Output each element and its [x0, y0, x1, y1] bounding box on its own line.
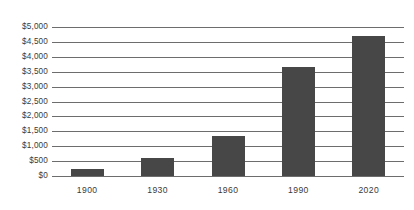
y-tick-label: $0	[0, 172, 48, 180]
bar-2020[interactable]	[352, 36, 385, 176]
y-axis: $5,000 $4,500 $4,000 $3,500 $3,000 $2,50…	[0, 0, 48, 210]
bar-1990[interactable]	[282, 67, 315, 176]
y-tick-label: $5,000	[0, 23, 48, 31]
bars-layer	[52, 0, 404, 210]
y-tick-label: $4,000	[0, 53, 48, 61]
bar-1930[interactable]	[141, 158, 174, 176]
y-tick-label: $3,500	[0, 68, 48, 76]
y-tick-label: $1,000	[0, 142, 48, 150]
y-tick-label: $2,500	[0, 97, 48, 105]
bar-chart: $5,000 $4,500 $4,000 $3,500 $3,000 $2,50…	[0, 0, 414, 210]
y-tick-label: $1,500	[0, 127, 48, 135]
y-tick-label: $3,000	[0, 82, 48, 90]
bar-1960[interactable]	[212, 136, 245, 176]
y-tick-label: $500	[0, 157, 48, 165]
y-tick-label: $2,000	[0, 112, 48, 120]
bar-1900[interactable]	[71, 169, 104, 176]
plot-area	[52, 0, 404, 210]
y-tick-label: $4,500	[0, 38, 48, 46]
